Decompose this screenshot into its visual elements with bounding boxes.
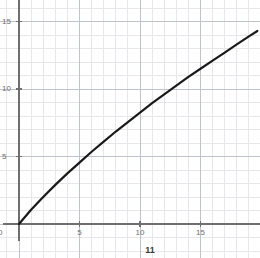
figure-caption: 11 bbox=[145, 246, 155, 255]
y-axis-tick-label: 10 bbox=[2, 85, 11, 93]
x-axis-tick-label: 10 bbox=[136, 229, 145, 237]
origin-tick-label: 0 bbox=[0, 229, 2, 237]
data-series bbox=[19, 31, 257, 224]
x-axis-tick-label: 15 bbox=[196, 229, 205, 237]
y-axis-tick-label: 15 bbox=[2, 18, 11, 26]
y-axis-tick-label: 5 bbox=[2, 153, 6, 161]
plot-area bbox=[0, 0, 260, 258]
x-axis-tick-label: 5 bbox=[77, 229, 81, 237]
chart-figure: 5101551015 0 11 bbox=[0, 0, 260, 258]
minor-gridlines bbox=[0, 0, 260, 258]
